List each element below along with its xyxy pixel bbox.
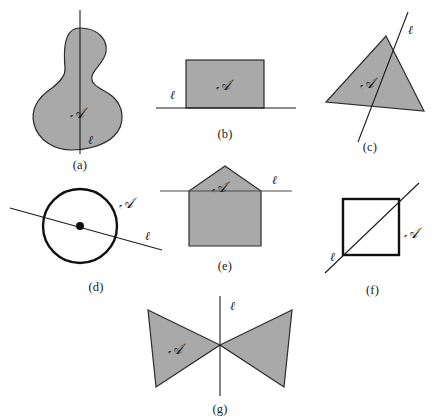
panel-caption-a: (a) [10,158,150,173]
panel-e: 𝒜 ℓ (e) [150,158,300,278]
panel-caption-g: (g) [120,402,320,417]
blob-region-a [33,28,122,150]
center-dot-d [76,222,84,230]
bowtie-left-region-g [148,310,220,387]
panel-c: 𝒜 ℓ (c) [300,8,440,168]
line-label-a: ℓ [88,133,93,147]
panel-a-graphic: 𝒜 ℓ [10,8,150,156]
line-label-c: ℓ [408,23,413,37]
panel-g: 𝒜 ℓ (g) [120,292,320,420]
panel-b-graphic: 𝒜 ℓ [150,45,300,123]
panel-g-graphic: 𝒜 ℓ [120,292,320,400]
line-label-f: ℓ [330,250,335,264]
line-d [10,208,162,250]
panel-a: 𝒜 ℓ (a) [10,8,150,178]
panel-e-graphic: 𝒜 ℓ [150,158,300,256]
panel-f-graphic: 𝒜 ℓ [305,175,440,280]
region-label-d: 𝒜 [119,194,138,212]
panel-caption-f: (f) [305,283,440,298]
square-region-f [343,199,399,255]
figure-root: 𝒜 ℓ (a) 𝒜 ℓ (b) 𝒜 ℓ (c) 𝒜 ℓ [0,0,444,420]
panel-caption-b: (b) [150,127,300,142]
line-label-e: ℓ [272,173,277,187]
panel-caption-c: (c) [300,140,440,155]
bowtie-right-region-g [220,310,292,387]
panel-f: 𝒜 ℓ (f) [305,175,440,300]
panel-b: 𝒜 ℓ (b) [150,45,300,145]
region-label-f: 𝒜 [404,224,423,242]
line-label-b: ℓ [170,88,175,102]
line-label-g: ℓ [230,299,235,313]
panel-c-graphic: 𝒜 ℓ [300,8,440,146]
panel-caption-e: (e) [150,259,300,274]
triangle-region-c [326,36,424,111]
